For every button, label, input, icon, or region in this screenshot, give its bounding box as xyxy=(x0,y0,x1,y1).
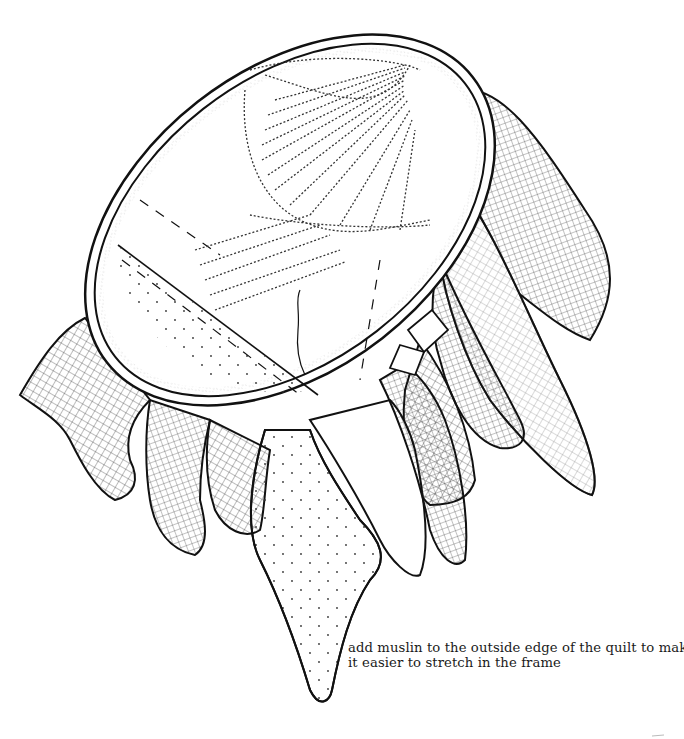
page-mark xyxy=(652,735,664,736)
quilting-hoop-illustration xyxy=(0,0,684,739)
caption-line-1: add muslin to the outside edge of the qu… xyxy=(348,640,684,655)
caption-line-2: it easier to stretch in the frame xyxy=(348,655,684,670)
figure-caption: add muslin to the outside edge of the qu… xyxy=(348,640,684,670)
